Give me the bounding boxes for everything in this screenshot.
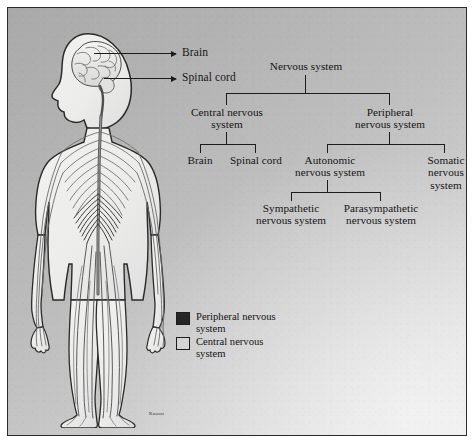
connector-central-bar xyxy=(200,144,256,145)
connector-peripheral-bar xyxy=(327,144,445,145)
legend-swatch-central xyxy=(176,337,190,350)
legend-label-peripheral: Peripheral nervous system xyxy=(196,311,288,334)
legend-label-central: Central nervous system xyxy=(196,336,288,359)
right-hand-outline xyxy=(147,327,165,353)
legend-item-central: Central nervous system xyxy=(176,336,288,359)
connector-autonomic-bar xyxy=(291,192,381,193)
connector-central-drop xyxy=(226,93,227,105)
tree-node-nervous-system: Nervous system xyxy=(256,60,356,72)
left-leg-outline xyxy=(61,300,100,428)
artist-signature: Kausat xyxy=(149,411,164,416)
legend-item-peripheral: Peripheral nervous system xyxy=(176,311,288,334)
connector-sympathetic-drop xyxy=(291,192,292,201)
brain-leader-line xyxy=(94,53,176,54)
legend: Peripheral nervous system Central nervou… xyxy=(176,311,288,361)
connector-level1-bar xyxy=(226,93,390,94)
connector-spinalcord-drop xyxy=(255,144,256,153)
connector-autonomic-drop xyxy=(327,144,328,153)
tree-node-parasympathetic-nervous-system: Parasympathetic nervous system xyxy=(335,202,427,227)
right-leg-outline xyxy=(96,300,135,428)
tree-node-peripheral-nervous-system: Peripheral nervous system xyxy=(349,106,431,131)
tree-node-central-nervous-system: Central nervous system xyxy=(186,106,268,131)
connector-peripheral-stem xyxy=(389,132,390,144)
connector-somatic-drop xyxy=(444,144,445,153)
connector-parasympathetic-drop xyxy=(380,192,381,201)
tree-node-spinal-cord: Spinal cord xyxy=(226,154,286,166)
figure-panel: Brain Spinal cord Nervous system Central… xyxy=(7,7,467,436)
legend-swatch-peripheral xyxy=(176,312,190,325)
connector-autonomic-stem xyxy=(327,180,328,192)
connector-central-stem xyxy=(226,132,227,144)
connector-root-stem xyxy=(305,75,306,93)
connector-peripheral-drop xyxy=(389,93,390,105)
tree-node-somatic-nervous-system: Somatic nervous system xyxy=(424,154,467,191)
connector-brain-drop xyxy=(200,144,201,153)
callout-brain: Brain xyxy=(182,46,208,58)
spinal-cord-leader-line xyxy=(104,78,176,79)
tree-node-brain: Brain xyxy=(180,154,220,166)
nervous-system-tree-diagram: Nervous system Central nervous system Pe… xyxy=(194,60,462,240)
tree-node-sympathetic-nervous-system: Sympathetic nervous system xyxy=(249,202,333,227)
tree-node-autonomic-nervous-system: Autonomic nervous system xyxy=(288,154,372,179)
